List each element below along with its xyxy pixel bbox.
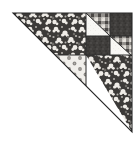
quilt-image-canvas	[0, 0, 139, 147]
patch-solid-dark-square-middle-left	[86, 36, 110, 56]
quilt-block-illustration	[0, 0, 139, 147]
patch-solid-dark-square-top-right	[110, 13, 132, 36]
